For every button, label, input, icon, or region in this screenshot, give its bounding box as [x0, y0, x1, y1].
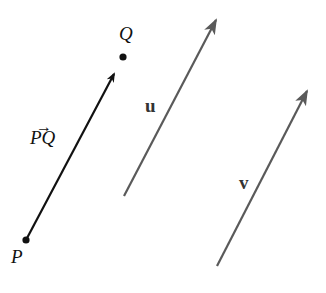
point-p: [22, 236, 29, 243]
vector-arrow-icon: →: [36, 118, 52, 136]
point-q: [119, 53, 126, 60]
label-pq: → PQ: [30, 127, 55, 149]
label-v: v: [239, 173, 249, 192]
label-u: u: [145, 96, 156, 115]
vector-u: [124, 20, 216, 196]
label-q: Q: [119, 24, 133, 43]
vector-pq: [26, 74, 114, 240]
vector-v: [217, 91, 307, 266]
label-p: P: [11, 247, 23, 266]
